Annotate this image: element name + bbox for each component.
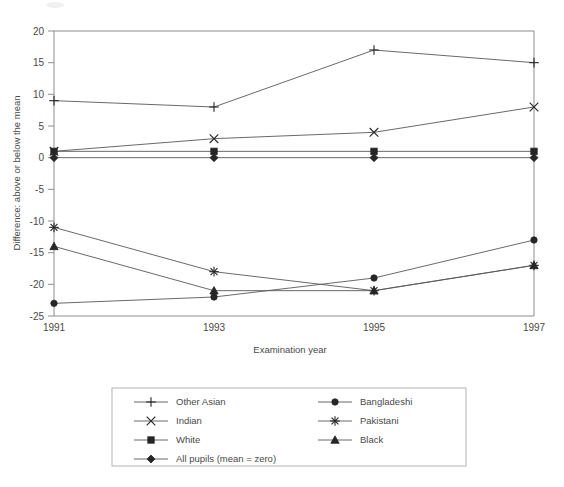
- x-axis-title: Examination year: [253, 344, 326, 355]
- legend-item-bangladeshi[interactable]: Bangladeshi: [318, 396, 412, 407]
- chart-figure: 20 15 10 5 0 -5 -10 -15 -20 -25 Differen…: [0, 0, 564, 487]
- y-axis-ticks: [48, 31, 54, 316]
- y-tick-label: -10: [30, 216, 45, 227]
- y-axis-tick-labels: 20 15 10 5 0 -5 -10 -15 -20 -25: [30, 26, 45, 322]
- diamond-marker: [147, 455, 155, 463]
- plot-frame: [54, 31, 534, 316]
- series-line: [54, 246, 534, 290]
- legend-item-label: Other Asian: [176, 396, 226, 407]
- legend-item-indian[interactable]: Indian: [134, 415, 202, 426]
- y-axis-title: Difference: above or below the mean: [11, 95, 22, 250]
- legend-item-label: Black: [360, 434, 383, 445]
- y-tick-label: -15: [30, 247, 45, 258]
- data-point-marker: [371, 275, 377, 281]
- legend-item-label: All pupils (mean = zero): [176, 453, 276, 464]
- series-white: [51, 148, 537, 154]
- series-pakistani: [49, 223, 539, 296]
- legend-item-label: Indian: [176, 415, 202, 426]
- series-bangladeshi: [51, 237, 537, 307]
- circle-marker: [332, 399, 338, 405]
- series-line: [54, 227, 534, 290]
- data-point-marker: [51, 300, 57, 306]
- legend-item-all-pupils-mean-zero[interactable]: All pupils (mean = zero): [134, 453, 276, 464]
- legend-item-label: Bangladeshi: [360, 396, 412, 407]
- legend-box: [112, 388, 466, 466]
- legend-entries-layer: Other AsianIndianWhiteAll pupils (mean =…: [134, 396, 412, 464]
- legend-item-white[interactable]: White: [134, 434, 200, 445]
- line-chart: 20 15 10 5 0 -5 -10 -15 -20 -25 Differen…: [0, 0, 564, 487]
- legend-item-other-asian[interactable]: Other Asian: [134, 396, 226, 407]
- y-tick-label: 5: [38, 121, 44, 132]
- x-tick-label: 1991: [43, 322, 66, 333]
- y-tick-label: -25: [30, 311, 45, 322]
- series-line: [54, 107, 534, 151]
- x-tick-label: 1995: [363, 322, 386, 333]
- series-black: [50, 242, 538, 294]
- legend-item-pakistani[interactable]: Pakistani: [318, 415, 399, 426]
- data-point-marker: [211, 294, 217, 300]
- y-tick-label: 15: [33, 57, 45, 68]
- legend-item-label: Pakistani: [360, 415, 399, 426]
- y-tick-label: -5: [35, 184, 44, 195]
- x-tick-label: 1997: [523, 322, 546, 333]
- square-marker: [148, 437, 154, 443]
- legend-item-label: White: [176, 434, 200, 445]
- y-tick-label: 20: [33, 26, 45, 37]
- y-tick-label: 0: [38, 152, 44, 163]
- y-tick-label: 10: [33, 89, 45, 100]
- series-indian: [50, 103, 539, 156]
- x-tick-label: 1993: [203, 322, 226, 333]
- data-point-marker: [50, 242, 58, 249]
- series-other-asian: [49, 45, 539, 112]
- data-series-layer: [49, 45, 539, 306]
- y-tick-label: -20: [30, 279, 45, 290]
- x-axis-tick-labels: 1991 1993 1995 1997: [43, 322, 546, 333]
- series-line: [54, 50, 534, 107]
- data-point-marker: [531, 237, 537, 243]
- series-line: [54, 240, 534, 303]
- series-all-pupils-mean-zero: [50, 154, 538, 162]
- scan-artifact: [46, 2, 64, 8]
- legend-item-black[interactable]: Black: [318, 434, 383, 445]
